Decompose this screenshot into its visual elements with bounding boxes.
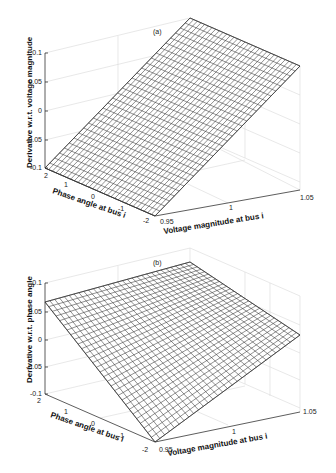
panel-a-surface <box>45 18 300 216</box>
panel-a-label: (a) <box>153 28 162 36</box>
panel-b-label: (b) <box>153 259 162 267</box>
a-zlabel: Derivative w.r.t. voltage magnitude <box>25 36 34 168</box>
b-ytick-4: -2 <box>142 446 148 453</box>
a-xtick-2: 1.05 <box>300 194 314 201</box>
b-ztick-2: 0 <box>38 336 42 343</box>
a-xtick-0: 0.95 <box>160 218 174 225</box>
b-ytick-0: 2 <box>37 397 41 404</box>
b-xtick-2: 1.05 <box>303 408 317 415</box>
panel-a: 0.1 0.05 0 -0.05 -0.1 2 1 0 -1 -2 0.95 1… <box>25 18 314 236</box>
a-ytick-4: -2 <box>143 217 149 224</box>
b-xtick-1: 1 <box>232 428 236 435</box>
a-ytick-0: 2 <box>44 172 48 179</box>
b-xlabel: Voltage magnitude at bus i <box>167 432 268 458</box>
panel-b: 0.1 0.05 0 -0.05 -0.1 2 1 0 -1 -2 0.95 1… <box>25 248 317 458</box>
b-zlabel: Derivative w.r.t. phase angle <box>25 276 34 383</box>
a-ztick-2: 0 <box>38 107 42 114</box>
a-xtick-1: 1 <box>229 204 233 211</box>
a-ytick-1: 1 <box>64 181 68 188</box>
b-ylabel: Phase angle at bus i <box>49 410 125 444</box>
a-xlabel: Voltage magnitude at bus i <box>163 211 264 236</box>
panel-b-surface <box>45 262 300 442</box>
figure-canvas: 0.1 0.05 0 -0.05 -0.1 2 1 0 -1 -2 0.95 1… <box>0 0 336 473</box>
b-ztick-4: -0.1 <box>30 390 42 397</box>
